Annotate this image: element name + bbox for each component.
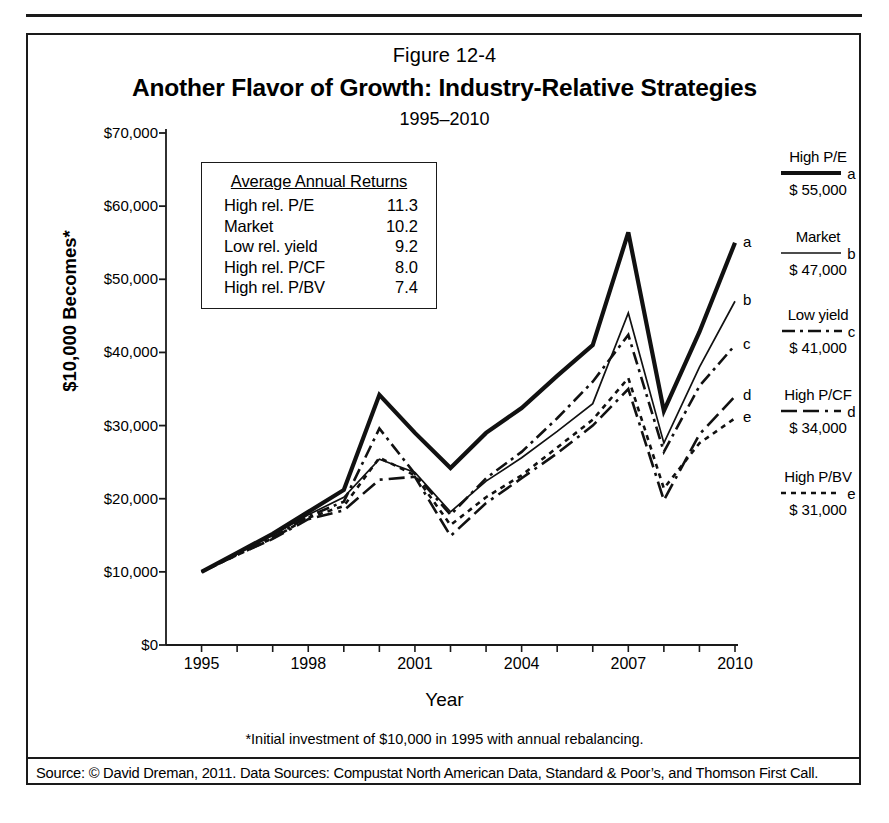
x-tick-label: 2004 [482, 655, 562, 673]
returns-row-value: 7.4 [374, 277, 418, 298]
y-tick-label: $10,000 [70, 563, 158, 580]
returns-row: High rel. P/E11.3 [202, 195, 436, 216]
legend-entry-final-value: $ 34,000 [762, 419, 874, 436]
series-line-d [202, 389, 735, 572]
legend-entry-final-value: $ 41,000 [762, 339, 874, 356]
returns-row: Low rel. yield9.2 [202, 236, 436, 257]
legend-entry-final-value: $ 55,000 [762, 181, 874, 198]
legend-entry-sample: b [762, 245, 874, 261]
legend-entry-name: High P/CF [762, 386, 874, 403]
y-tick-label: $30,000 [70, 417, 158, 434]
source-divider-rule [28, 757, 859, 759]
legend-entry-final-value: $ 31,000 [762, 501, 874, 518]
returns-row-name: Low rel. yield [224, 236, 374, 257]
series-endpoint-label-b: b [743, 291, 751, 308]
legend-entry-name: Low yield [762, 306, 874, 323]
series-endpoint-label-a: a [743, 233, 751, 250]
returns-row-group: High rel. P/E11.3Market10.2Low rel. yiel… [202, 195, 436, 298]
legend-line-swatch-e [780, 487, 842, 499]
series-legend: High P/Ea$ 55,000Marketb$ 47,000Low yiel… [762, 148, 874, 530]
returns-row-name: Market [224, 216, 374, 237]
y-tick-label: $20,000 [70, 490, 158, 507]
x-tick-label: 2001 [375, 655, 455, 673]
average-annual-returns-box: Average Annual Returns High rel. P/E11.3… [201, 162, 437, 309]
returns-row: Market10.2 [202, 216, 436, 237]
legend-entry-final-value: $ 47,000 [762, 261, 874, 278]
legend-entry-b: Marketb$ 47,000 [762, 228, 874, 278]
y-tick-label: $40,000 [70, 343, 158, 360]
legend-entry-sample: e [762, 485, 874, 501]
figure-page: Figure 12-4 Another Flavor of Growth: In… [0, 0, 889, 823]
y-tick-label: $70,000 [70, 124, 158, 141]
legend-entry-name: High P/E [762, 148, 874, 165]
legend-line-swatch-a [780, 167, 842, 179]
y-tick-label: $50,000 [70, 270, 158, 287]
series-endpoint-label-e: e [743, 408, 751, 425]
x-tick-label: 2010 [695, 655, 775, 673]
x-tick-label: 1998 [268, 655, 348, 673]
legend-entry-d: High P/CFd$ 34,000 [762, 386, 874, 436]
legend-entry-sample: a [762, 165, 874, 181]
legend-entry-name: Market [762, 228, 874, 245]
returns-row-value: 8.0 [374, 257, 418, 278]
legend-entry-key: b [847, 245, 855, 262]
legend-entry-sample: c [762, 323, 874, 339]
y-tick-label: $60,000 [70, 197, 158, 214]
legend-entry-c: Low yieldc$ 41,000 [762, 306, 874, 356]
returns-row-name: High rel. P/E [224, 195, 374, 216]
legend-entry-e: High P/BVe$ 31,000 [762, 468, 874, 518]
x-tick-label: 2007 [588, 655, 668, 673]
legend-entry-key: e [847, 485, 855, 502]
returns-row-value: 10.2 [374, 216, 418, 237]
chart-footnote: *Initial investment of $10,000 in 1995 w… [0, 731, 889, 747]
x-tick-label: 1995 [162, 655, 242, 673]
legend-entry-key: a [847, 165, 855, 182]
legend-entry-sample: d [762, 403, 874, 419]
series-endpoint-label-d: d [743, 386, 751, 403]
source-credit: Source: © David Dreman, 2011. Data Sourc… [36, 765, 818, 781]
returns-row-value: 9.2 [374, 236, 418, 257]
returns-row-name: High rel. P/CF [224, 257, 374, 278]
legend-line-swatch-b [780, 247, 842, 259]
legend-entry-name: High P/BV [762, 468, 874, 485]
legend-entry-key: d [847, 403, 855, 420]
returns-row-name: High rel. P/BV [224, 277, 374, 298]
x-axis-title: Year [0, 689, 889, 711]
series-endpoint-label-c: c [743, 335, 751, 352]
legend-line-swatch-c [781, 325, 843, 337]
returns-row: High rel. P/BV7.4 [202, 277, 436, 298]
legend-line-swatch-d [780, 405, 842, 417]
legend-entry-a: High P/Ea$ 55,000 [762, 148, 874, 198]
returns-box-heading: Average Annual Returns [202, 172, 436, 191]
legend-entry-key: c [848, 323, 856, 340]
y-tick-label: $0 [70, 636, 158, 653]
returns-row-value: 11.3 [374, 195, 418, 216]
returns-row: High rel. P/CF8.0 [202, 257, 436, 278]
